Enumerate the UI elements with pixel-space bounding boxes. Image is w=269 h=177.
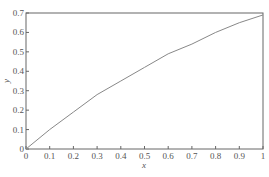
y-tick-label: 0.2	[13, 105, 24, 115]
x-tick-label: 1	[261, 151, 266, 161]
x-tick-label: 0.2	[68, 151, 79, 161]
y-tick-label: 0.6	[13, 27, 25, 37]
x-tick-label: 0.1	[44, 151, 55, 161]
y-tick-label: 0.7	[13, 8, 25, 18]
y-tick-label: 0.1	[13, 125, 24, 135]
y-axis-label: y	[1, 79, 11, 84]
y-tick-label: 0.4	[13, 66, 25, 76]
x-tick-label: 0.7	[186, 151, 198, 161]
x-tick-label: 0.4	[115, 151, 127, 161]
plot-frame	[26, 13, 263, 149]
y-tick-label: 0.5	[13, 47, 25, 57]
y-axis-ticks: 00.10.20.30.40.50.60.7	[13, 8, 29, 154]
x-tick-label: 0.3	[91, 151, 103, 161]
x-tick-label: 0.8	[210, 151, 222, 161]
x-tick-label: 0	[24, 151, 29, 161]
x-tick-label: 0.9	[234, 151, 246, 161]
data-line	[26, 15, 263, 149]
y-tick-label: 0.3	[13, 86, 25, 96]
x-axis-ticks: 00.10.20.30.40.50.60.70.80.91	[24, 146, 266, 161]
x-tick-label: 0.6	[163, 151, 175, 161]
x-axis-label: x	[141, 160, 146, 170]
line-chart: 00.10.20.30.40.50.60.70.80.91 00.10.20.3…	[0, 0, 269, 170]
y-tick-label: 0	[20, 144, 25, 154]
